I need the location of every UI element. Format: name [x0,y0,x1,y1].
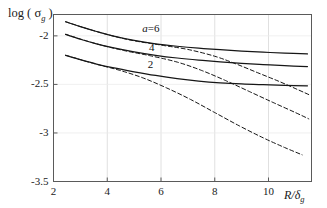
curve-a-4-solid [66,34,308,66]
plot-svg [0,0,327,208]
chart-figure: log ( σg ) R/δg 246810-2-2.5-3-3.5 a=642 [0,0,327,208]
curves-group [66,22,309,155]
gridlines-group [54,15,312,182]
x-tick-label-4: 4 [93,185,121,197]
curve-a-2-dashed [66,55,303,155]
curve-a-6-solid [66,22,308,54]
plot-frame [54,15,312,182]
x-tick-label-10: 10 [255,185,283,197]
curve-annotation-2: 2 [148,58,154,70]
y-tick-label-neg3: -3 [18,126,49,138]
y-tick-label-neg2: -2 [18,29,49,41]
curve-annotation-a-6: a=6 [142,22,159,34]
curve-a-2-solid [66,55,308,86]
y-tick-label-neg2p5: -2.5 [18,77,49,89]
x-tick-label-6: 6 [147,185,175,197]
curve-annotation-4: 4 [149,41,155,53]
y-tick-label-neg3p5: -3.5 [18,175,49,187]
x-tick-label-8: 8 [201,185,229,197]
